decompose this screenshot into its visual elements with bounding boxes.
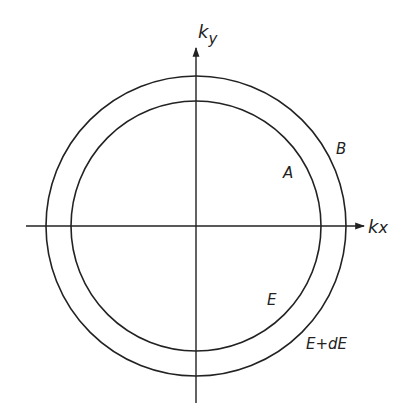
- label-e: E: [267, 291, 277, 309]
- ky-axis-label: ky: [198, 21, 218, 48]
- label-a: A: [282, 164, 293, 182]
- k-space-diagram: ky kx A B E E+dE: [0, 0, 414, 419]
- kx-axis-label: kx: [368, 216, 388, 237]
- label-e-plus-de: E+dE: [306, 335, 348, 353]
- label-b: B: [336, 140, 346, 158]
